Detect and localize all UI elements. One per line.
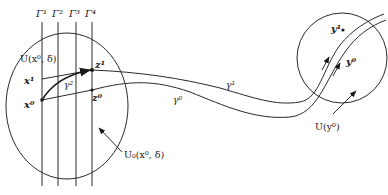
curve-gamma1-label: γ¹ (226, 80, 235, 90)
inner-region-label: U₀(x⁰, δ) (124, 149, 164, 160)
neighborhood-x0-label: U(x⁰, δ) (20, 53, 56, 64)
point-x0 (40, 98, 44, 102)
point-y0-label: y⁰ (345, 56, 357, 67)
hyperplane-gamma3-label: Γ³ (68, 8, 80, 19)
neighborhood-y0-circle (297, 13, 387, 103)
point-x0-label: x⁰ (23, 99, 35, 110)
diagram: Γ¹ Γ² Γ³ Γ⁴ U(x⁰, δ) x⁰ x¹ z¹ z⁰ γ² γ⁰ γ… (0, 0, 388, 195)
curve-gamma0-label: γ⁰ (173, 95, 182, 105)
point-x1-label: x¹ (23, 75, 34, 86)
point-z1 (90, 68, 94, 72)
right-region-label: U(y⁰) (315, 121, 340, 132)
pointer-inner-region (99, 128, 122, 152)
point-y1 (341, 28, 344, 31)
hyperplane-gamma4-label: Γ⁴ (84, 8, 96, 19)
hyperplane-gamma2-label: Γ² (51, 8, 63, 19)
point-z1-label: z¹ (94, 59, 105, 70)
curve-gamma2-label: γ² (64, 80, 73, 90)
hyperplane-gamma1-label: Γ¹ (35, 8, 47, 19)
point-y1-label: y¹ (330, 23, 341, 34)
direction-arrow-gamma1 (322, 57, 329, 70)
point-z0-label: z⁰ (91, 92, 103, 103)
